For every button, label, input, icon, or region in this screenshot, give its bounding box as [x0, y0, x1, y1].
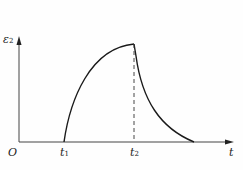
- x-axis-label: t: [229, 147, 233, 158]
- y-axis-arrow-icon: [17, 36, 22, 45]
- strain-time-diagram: ε2 O t1 t2 t: [0, 0, 243, 170]
- t1-label: t1: [60, 147, 69, 158]
- y-axis-label: ε2: [3, 34, 13, 45]
- diagram-canvas: [0, 0, 243, 170]
- rise-curve: [64, 44, 134, 142]
- origin-label: O: [8, 147, 17, 158]
- x-axis-arrow-icon: [225, 140, 234, 145]
- t2-label: t2: [130, 147, 139, 158]
- decay-curve: [134, 44, 194, 142]
